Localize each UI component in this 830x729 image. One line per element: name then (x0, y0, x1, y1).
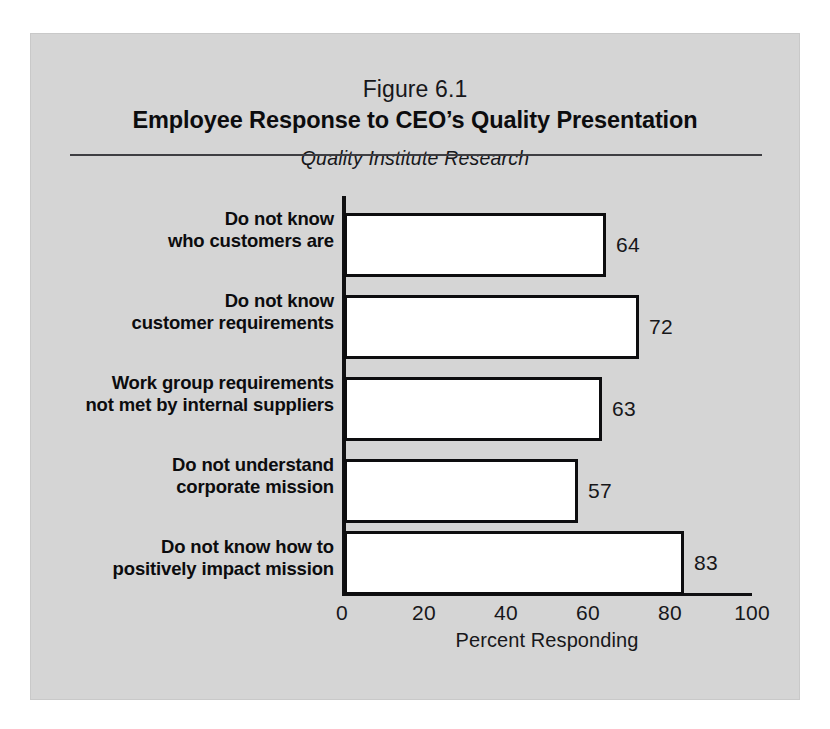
category-label-4-line-0: Do not know how to (38, 536, 334, 558)
bar-3[interactable] (344, 459, 578, 523)
x-tick-label-0: 0 (312, 601, 372, 625)
category-label-4: Do not know how to positively impact mis… (38, 536, 334, 580)
bar-2[interactable] (344, 377, 602, 441)
bar-row: 83 (344, 531, 744, 595)
category-label-3-line-1: corporate mission (38, 476, 334, 498)
category-label-0: Do not know who customers are (38, 208, 334, 252)
bar-0[interactable] (344, 213, 606, 277)
figure-panel: Figure 6.1 Employee Response to CEO’s Qu… (30, 33, 800, 700)
category-label-0-line-0: Do not know (38, 208, 334, 230)
category-label-3-line-0: Do not understand (38, 454, 334, 476)
category-label-0-line-1: who customers are (38, 230, 334, 252)
bar-chart-plot: Do not know who customers are Do not kno… (30, 33, 800, 700)
bar-value-0: 64 (616, 233, 640, 257)
x-tick-label-2: 40 (476, 601, 536, 625)
bar-row: 57 (344, 459, 744, 523)
x-tick-label-5: 100 (722, 601, 782, 625)
category-label-1-line-0: Do not know (38, 290, 334, 312)
bar-4[interactable] (344, 531, 684, 595)
bar-row: 72 (344, 295, 744, 359)
bar-row: 64 (344, 213, 744, 277)
category-label-1: Do not know customer requirements (38, 290, 334, 334)
x-tick-label-4: 80 (640, 601, 700, 625)
bar-row: 63 (344, 377, 744, 441)
category-label-2-line-1: not met by internal suppliers (38, 394, 334, 416)
category-label-2: Work group requirements not met by inter… (38, 372, 334, 416)
bar-value-3: 57 (588, 479, 612, 503)
x-axis-title: Percent Responding (342, 629, 752, 652)
bar-value-1: 72 (649, 315, 673, 339)
category-label-3: Do not understand corporate mission (38, 454, 334, 498)
category-label-2-line-0: Work group requirements (38, 372, 334, 394)
bar-value-4: 83 (694, 551, 718, 575)
bar-1[interactable] (344, 295, 639, 359)
bar-value-2: 63 (612, 397, 636, 421)
category-label-1-line-1: customer requirements (38, 312, 334, 334)
category-label-4-line-1: positively impact mission (38, 558, 334, 580)
x-tick-label-1: 20 (394, 601, 454, 625)
x-tick-label-3: 60 (558, 601, 618, 625)
